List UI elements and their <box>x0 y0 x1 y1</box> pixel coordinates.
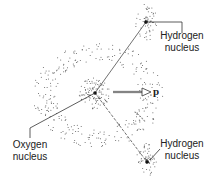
dipole-moment-label: p <box>153 85 159 97</box>
label-oxygen: Oxygen nucleus <box>8 139 52 163</box>
bond-axis-bottom <box>95 93 147 162</box>
label-line: nucleus <box>158 42 206 54</box>
dipole-arrow <box>113 88 151 96</box>
label-top-hydrogen: Hydrogen nucleus <box>158 30 206 54</box>
label-line: nucleus <box>8 151 52 163</box>
water-molecule-diagram: Hydrogen nucleus Hydrogen nucleus Oxygen… <box>0 0 211 180</box>
label-line: nucleus <box>158 150 206 162</box>
hydrogen-nucleus-bottom <box>145 160 149 164</box>
label-bottom-hydrogen: Hydrogen nucleus <box>158 138 206 162</box>
bond-axis-top <box>95 22 146 93</box>
label-line: Hydrogen <box>158 30 206 42</box>
label-line: Hydrogen <box>158 138 206 150</box>
label-line: Oxygen <box>8 139 52 151</box>
leader-oxygen <box>30 93 95 138</box>
